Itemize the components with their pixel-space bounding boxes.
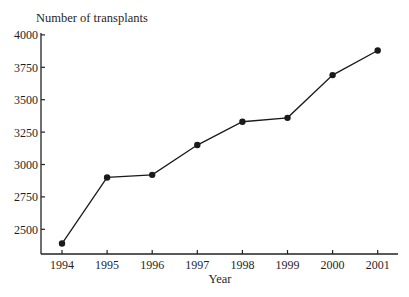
y-tick-label: 2500: [14, 223, 38, 237]
y-axis: 2500275030003250350037504000: [14, 28, 45, 254]
y-axis-label: Number of transplants: [36, 11, 148, 25]
y-tick-label: 3500: [14, 93, 38, 107]
series-line: [62, 50, 378, 243]
data-point-marker: [284, 115, 290, 121]
x-axis-label: Year: [208, 272, 232, 286]
y-tick-label: 3250: [14, 126, 38, 140]
data-series: [59, 47, 381, 247]
data-point-marker: [149, 172, 155, 178]
data-point-marker: [59, 240, 65, 246]
x-tick-label: 2000: [321, 258, 345, 272]
x-tick-label: 1996: [140, 258, 164, 272]
data-point-marker: [239, 119, 245, 125]
x-tick-label: 1997: [185, 258, 209, 272]
data-point-marker: [329, 72, 335, 78]
y-tick-label: 3000: [14, 158, 38, 172]
data-point-marker: [194, 142, 200, 148]
x-tick-label: 1994: [50, 258, 74, 272]
x-tick-label: 1998: [230, 258, 254, 272]
line-chart: Number of transplants 250027503000325035…: [0, 0, 409, 297]
data-point-marker: [104, 174, 110, 180]
x-tick-label: 2001: [366, 258, 390, 272]
data-point-marker: [375, 47, 381, 53]
y-tick-label: 4000: [14, 28, 38, 42]
y-tick-label: 3750: [14, 61, 38, 75]
x-tick-label: 1995: [95, 258, 119, 272]
x-axis: 19941995199619971998199920002001: [41, 250, 398, 272]
y-tick-label: 2750: [14, 190, 38, 204]
x-tick-label: 1999: [276, 258, 300, 272]
